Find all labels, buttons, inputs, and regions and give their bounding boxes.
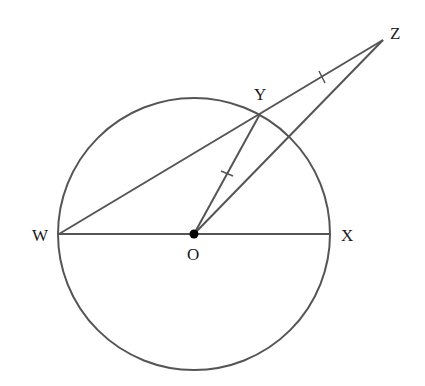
center-point-o <box>190 230 199 239</box>
geometry-diagram: W X O Y Z <box>0 0 425 386</box>
label-w: W <box>32 226 49 245</box>
label-z: Z <box>390 24 400 43</box>
label-y: Y <box>254 85 266 104</box>
label-x: X <box>341 226 353 245</box>
label-o: O <box>187 245 199 264</box>
